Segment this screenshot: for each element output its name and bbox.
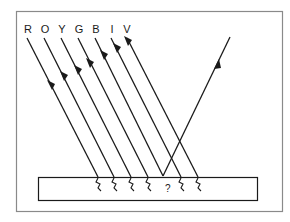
incident-arrowheads — [47, 36, 132, 90]
unknown-absorption-marker: ? — [165, 184, 171, 194]
arrowhead-blue-icon — [100, 50, 108, 60]
label-green: G — [73, 23, 85, 35]
label-orange: O — [39, 23, 51, 35]
label-red: R — [22, 23, 34, 35]
arrowhead-yellow-icon — [74, 65, 82, 75]
ray-orange — [44, 38, 114, 177]
label-blue: B — [90, 23, 102, 35]
absorbing-surface — [39, 178, 258, 201]
ray-blue — [95, 38, 163, 176]
arrowhead-indigo-icon — [113, 43, 121, 53]
label-indigo: I — [106, 23, 118, 35]
label-yellow: Y — [56, 23, 68, 35]
reflected-ray — [163, 37, 230, 176]
arrowhead-red-icon — [47, 80, 55, 90]
arrowhead-orange-icon — [60, 71, 68, 81]
label-violet: V — [121, 23, 133, 35]
reflected-arrowhead-icon — [214, 59, 221, 69]
light-spectrum-diagram: R O Y G B I V ? — [0, 0, 290, 222]
ray-indigo — [111, 38, 181, 177]
ray-yellow — [61, 38, 131, 177]
